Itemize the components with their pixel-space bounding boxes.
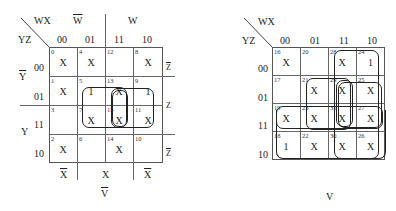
right-col-header: 10	[367, 36, 377, 46]
right-row-header: 00	[258, 64, 268, 74]
kmap-cell: 20	[300, 47, 328, 75]
right-col-var-label: WX	[258, 17, 275, 27]
kmap-cell: 17	[272, 75, 300, 103]
right-caption: V	[326, 192, 333, 202]
right-row-header: 01	[258, 93, 268, 103]
right-col-header: 01	[310, 36, 320, 46]
cell-index: 17	[274, 76, 281, 83]
cell-value: X	[272, 58, 300, 68]
right-row-header: 10	[258, 150, 268, 160]
right-col-header: 11	[339, 36, 349, 46]
right-group-loop	[276, 110, 386, 159]
cell-index: 16	[274, 48, 281, 55]
kmap-cell: 16X	[272, 47, 300, 75]
right-row-var-label: YZ	[242, 36, 255, 46]
right-col-header: 00	[280, 36, 290, 46]
cell-index: 20	[302, 48, 309, 55]
right-row-header: 11	[258, 121, 268, 131]
